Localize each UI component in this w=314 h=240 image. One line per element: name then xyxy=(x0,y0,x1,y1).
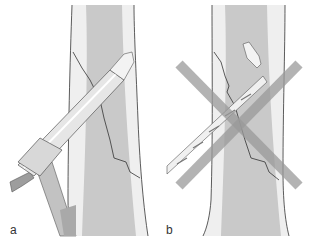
panel-b xyxy=(157,0,314,240)
panel-label-a: a xyxy=(10,223,17,237)
panel-label-b: b xyxy=(166,223,173,237)
panel-b-illustration xyxy=(157,0,314,240)
bone-outline-left xyxy=(203,5,212,236)
drill-bit-exit xyxy=(10,172,34,192)
panel-a xyxy=(0,0,157,240)
panel-a-illustration xyxy=(0,0,157,240)
